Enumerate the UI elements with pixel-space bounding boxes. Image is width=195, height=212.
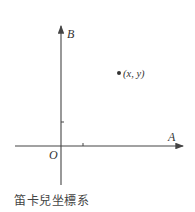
coordinate-diagram: B A O (x, y) bbox=[0, 0, 195, 212]
point-marker bbox=[117, 71, 121, 75]
origin-label: O bbox=[49, 148, 58, 162]
x-axis-label: A bbox=[167, 130, 176, 144]
point-label: (x, y) bbox=[123, 68, 145, 80]
y-axis-label: B bbox=[67, 27, 75, 41]
figure-caption: 笛卡兒坐標系 bbox=[14, 191, 89, 208]
